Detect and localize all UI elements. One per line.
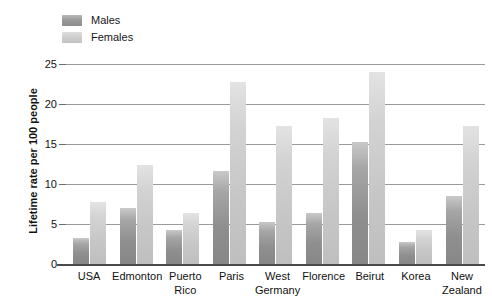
bar-females-florence	[323, 118, 339, 264]
x-tick-label: Beirut	[347, 269, 393, 297]
bar-females-puerto-rico	[183, 213, 199, 264]
legend-item-males: Males	[62, 12, 133, 29]
bar-group	[299, 64, 346, 264]
legend-swatch-females-icon	[62, 32, 82, 43]
x-axis-line	[57, 264, 485, 266]
bar-females-beirut	[369, 72, 385, 264]
x-tick-label: Florence	[301, 269, 347, 297]
bar-group	[159, 64, 206, 264]
bar-males-paris	[213, 171, 229, 264]
bar-group	[345, 64, 392, 264]
bar-group	[66, 64, 113, 264]
x-axis-labels: USAEdmontonPuertoRicoParisWestGermanyFlo…	[66, 269, 485, 297]
bar-males-korea	[399, 242, 415, 264]
bar-females-paris	[230, 82, 246, 264]
y-tick-label: 5	[51, 219, 57, 230]
bar-group	[206, 64, 253, 264]
bar-females-edmonton	[137, 165, 153, 264]
y-tick-mark	[59, 144, 66, 145]
y-tick-mark	[59, 104, 66, 105]
y-tick-mark	[59, 64, 66, 65]
y-axis-title: Lifetime rate per 100 people	[27, 66, 39, 256]
y-tick-label: 25	[45, 59, 57, 70]
bar-group	[113, 64, 160, 264]
bar-females-korea	[416, 230, 432, 264]
bar-females-usa	[90, 202, 106, 264]
y-tick-label: 10	[45, 179, 57, 190]
x-tick-label: Korea	[393, 269, 439, 297]
x-tick-label: Edmonton	[112, 269, 162, 297]
bar-males-florence	[306, 213, 322, 264]
bar-males-new-zealand	[446, 196, 462, 264]
bar-group	[252, 64, 299, 264]
x-tick-label: Paris	[208, 269, 254, 297]
x-tick-label: WestGermany	[254, 269, 300, 297]
y-tick-mark	[59, 184, 66, 185]
bar-males-beirut	[352, 142, 368, 264]
bar-males-puerto-rico	[166, 230, 182, 264]
plot-area: 0510152025	[66, 64, 485, 264]
bar-chart: Males Females Lifetime rate per 100 peop…	[0, 0, 492, 304]
y-tick-mark	[59, 224, 66, 225]
bar-group	[439, 64, 486, 264]
bar-females-west-germany	[276, 126, 292, 264]
bar-males-west-germany	[259, 222, 275, 264]
bar-group	[392, 64, 439, 264]
legend-swatch-males-icon	[62, 15, 82, 26]
legend-item-females: Females	[62, 29, 133, 46]
bar-males-edmonton	[120, 208, 136, 264]
legend-label-females: Females	[91, 32, 133, 43]
chart-legend: Males Females	[62, 12, 133, 46]
x-tick-label: NewZealand	[439, 269, 485, 297]
y-tick-label: 20	[45, 99, 57, 110]
bar-males-usa	[73, 238, 89, 264]
y-tick-label: 15	[45, 139, 57, 150]
x-tick-label: USA	[66, 269, 112, 297]
bar-females-new-zealand	[463, 126, 479, 264]
x-tick-label: PuertoRico	[162, 269, 208, 297]
legend-label-males: Males	[91, 15, 120, 26]
bar-groups	[66, 64, 485, 264]
